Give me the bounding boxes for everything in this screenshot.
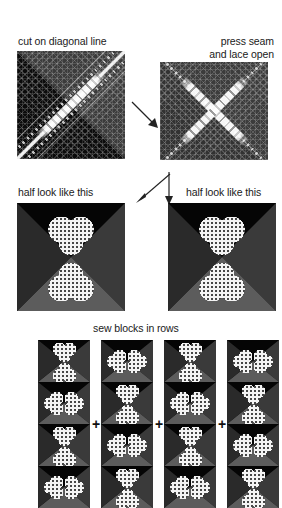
- polka-dot-heart-right: [191, 391, 212, 416]
- polka-dot-heart-down: [178, 361, 203, 382]
- polka-dot-heart-right: [128, 349, 149, 374]
- polka-dot-heart-left: [231, 433, 252, 458]
- assembly-column-1: [38, 340, 90, 508]
- assembly-column-3: [164, 340, 216, 508]
- assembly-column-2: [101, 340, 153, 508]
- polka-dot-heart-down: [115, 487, 140, 508]
- polka-dot-heart-down: [52, 445, 77, 466]
- polka-dot-heart-left: [42, 475, 63, 500]
- polka-dot-heart-right: [254, 433, 275, 458]
- polka-dot-heart-right: [65, 391, 86, 416]
- assembly-block: [101, 424, 153, 466]
- assembly-block: [38, 340, 90, 382]
- assembly-block: [38, 382, 90, 424]
- assembly-block: [227, 382, 279, 424]
- polka-dot-heart-left: [42, 391, 63, 416]
- polka-dot-heart-left: [168, 475, 189, 500]
- join-plus-2: +: [155, 417, 163, 431]
- polka-dot-heart-right: [65, 475, 86, 500]
- step-1-caption: cut on diagonal line: [18, 35, 107, 48]
- polka-dot-heart-left: [105, 433, 126, 458]
- polka-dot-heart-left: [168, 391, 189, 416]
- step-3-caption: half look like this: [18, 186, 93, 199]
- assembly-block: [101, 466, 153, 508]
- instruction-diagram: cut on diagonal line press seam and lace…: [0, 0, 282, 508]
- step-2-caption: press seam and lace open: [164, 35, 274, 60]
- assembly-block: [227, 466, 279, 508]
- polka-dot-heart-right: [191, 475, 212, 500]
- step-1-image: [17, 51, 125, 159]
- step-4-image: [168, 203, 276, 311]
- assembly-block: [164, 340, 216, 382]
- join-plus-1: +: [92, 417, 100, 431]
- polka-dot-heart-down: [115, 403, 140, 424]
- polka-dot-heart-right: [254, 349, 275, 374]
- assembly-block: [164, 466, 216, 508]
- arrow-step2-to-step4: [163, 172, 175, 206]
- join-plus-3: +: [218, 417, 226, 431]
- assembly-column-4: [227, 340, 279, 508]
- polka-dot-heart-down: [241, 487, 266, 508]
- polka-dot-heart-left: [105, 349, 126, 374]
- polka-dot-heart-up: [198, 217, 246, 259]
- step-2-image: [160, 62, 268, 160]
- polka-dot-heart-down: [241, 403, 266, 424]
- polka-dot-heart-right: [128, 433, 149, 458]
- assembly-block: [38, 424, 90, 466]
- polka-dot-heart-left: [231, 349, 252, 374]
- assembly-block: [38, 466, 90, 508]
- assembly-caption: sew blocks in rows: [93, 322, 179, 335]
- polka-dot-heart-down: [47, 259, 95, 301]
- arrow-step1-to-step2: [130, 100, 160, 130]
- assembly-block: [101, 340, 153, 382]
- polka-dot-heart-up: [47, 217, 95, 259]
- step-4-caption: half look like this: [186, 186, 261, 199]
- assembly-block: [164, 382, 216, 424]
- step-3-image: [17, 203, 125, 311]
- polka-dot-heart-down: [178, 445, 203, 466]
- assembly-block: [101, 382, 153, 424]
- polka-dot-heart-down: [52, 361, 77, 382]
- assembly-block: [227, 424, 279, 466]
- polka-dot-heart-down: [198, 259, 246, 301]
- assembly-block: [164, 424, 216, 466]
- assembly-block: [227, 340, 279, 382]
